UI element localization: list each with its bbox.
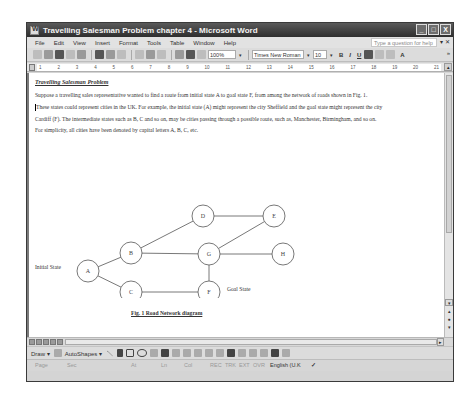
vertical-scrollbar[interactable]: ▾ ▴ ● ▾: [444, 73, 453, 337]
status-section: Sec: [67, 362, 76, 368]
save-icon[interactable]: [55, 50, 64, 59]
status-language[interactable]: English (U.K: [270, 362, 301, 368]
open-icon[interactable]: [44, 50, 53, 59]
autoshapes-menu-button[interactable]: AutoShapes ▾: [65, 350, 102, 357]
arrow-icon[interactable]: [117, 349, 123, 357]
print-preview-icon[interactable]: [106, 50, 115, 59]
insert-picture-icon[interactable]: [194, 349, 202, 357]
ruler-mark: 7: [149, 65, 152, 70]
text-box-icon[interactable]: [150, 349, 158, 357]
shadow-style-icon[interactable]: [271, 349, 279, 357]
edge-G-E: [218, 222, 264, 249]
scrollbar-thumb[interactable]: [446, 75, 452, 233]
toolbar-options-icon[interactable]: »: [447, 50, 450, 56]
road-network-diagram[interactable]: ABCDEGHF Initial State Goal State: [29, 178, 329, 298]
zoom-select[interactable]: 100%: [208, 50, 236, 59]
scroll-up-button[interactable]: ▴: [444, 63, 452, 71]
menu-edit[interactable]: Edit: [54, 40, 64, 46]
bold-button[interactable]: B: [339, 52, 343, 58]
font-size-select[interactable]: 10: [313, 50, 327, 59]
dash-style-icon[interactable]: [249, 349, 257, 357]
size-dropdown-icon[interactable]: ▾: [330, 52, 333, 58]
close-document-button[interactable]: ✕: [445, 38, 450, 45]
ruler-mark: 12: [246, 65, 251, 70]
spelling-status-icon[interactable]: ✓: [311, 362, 316, 368]
word-window: Travelling Salesman Problem chapter 4 - …: [26, 22, 454, 382]
spelling-icon[interactable]: [117, 50, 126, 59]
menu-file[interactable]: File: [35, 40, 45, 46]
web-layout-view-button[interactable]: [36, 339, 42, 345]
select-browse-object-button[interactable]: ●: [445, 316, 453, 323]
separator: [91, 50, 92, 60]
minimize-button[interactable]: _: [416, 24, 427, 35]
wordart-icon[interactable]: [161, 349, 169, 357]
ruler-mark: 19: [392, 65, 397, 70]
copy-icon[interactable]: [135, 50, 144, 59]
hyperlink-icon[interactable]: [175, 50, 184, 59]
status-trk[interactable]: TRK: [225, 362, 236, 368]
permission-icon[interactable]: [66, 50, 75, 59]
line-style-icon[interactable]: [238, 349, 246, 357]
drawing-icon[interactable]: [186, 50, 195, 59]
oval-icon[interactable]: [137, 349, 147, 357]
font-color-button[interactable]: A: [400, 52, 404, 58]
undo-icon[interactable]: [157, 50, 166, 59]
clip-art-icon[interactable]: [183, 349, 191, 357]
scroll-down-button[interactable]: ▾: [445, 299, 453, 306]
select-objects-icon[interactable]: [54, 349, 62, 357]
maximize-button[interactable]: □: [428, 24, 439, 35]
menu-help[interactable]: Help: [224, 40, 236, 46]
fill-color-icon[interactable]: [205, 349, 213, 357]
help-question-input[interactable]: Type a question for help: [371, 38, 437, 47]
normal-view-button[interactable]: [29, 339, 35, 345]
tab-selector[interactable]: [29, 64, 35, 71]
paste-icon[interactable]: [146, 50, 155, 59]
menu-window[interactable]: Window: [193, 40, 214, 46]
new-document-icon[interactable]: [33, 50, 42, 59]
status-ovr[interactable]: OVR: [253, 362, 265, 368]
justify-icon[interactable]: [364, 50, 373, 59]
arrow-style-icon[interactable]: [260, 349, 268, 357]
close-button[interactable]: X: [440, 24, 451, 35]
rectangle-icon[interactable]: [126, 349, 134, 357]
status-rec[interactable]: REC: [210, 362, 222, 368]
underline-button[interactable]: U: [357, 52, 361, 58]
horizontal-bar: ▸: [27, 337, 453, 346]
ruler-mark: 8: [168, 65, 171, 70]
menu-format[interactable]: Format: [119, 40, 138, 46]
scroll-right-button[interactable]: ▸: [437, 338, 444, 346]
draw-menu-button[interactable]: Draw ▾: [31, 350, 50, 357]
font-color-icon[interactable]: [227, 349, 235, 357]
figure-caption: Fig. 1 Road Network diagram: [131, 310, 202, 316]
next-page-button[interactable]: ▾: [445, 324, 453, 331]
print-layout-view-button[interactable]: [43, 339, 49, 345]
email-icon[interactable]: [77, 50, 86, 59]
font-select[interactable]: Times New Roman: [252, 50, 304, 59]
zoom-dropdown-icon[interactable]: ▾: [239, 52, 242, 58]
ruler[interactable]: 1 2 3 4 5 6 7 8 9 10 11 12 13 14 15 16 1…: [27, 63, 453, 72]
document-heading: Travelling Salesman Problem: [35, 79, 108, 85]
menu-insert[interactable]: Insert: [95, 40, 110, 46]
status-ext[interactable]: EXT: [239, 362, 250, 368]
document-page[interactable]: Travelling Salesman Problem Suppose a tr…: [27, 73, 444, 337]
scroll-left-button[interactable]: [57, 339, 63, 345]
horizontal-scrollbar[interactable]: [65, 339, 437, 345]
menu-table[interactable]: Table: [170, 40, 184, 46]
help-dropdown-icon[interactable]: ▾: [440, 38, 443, 45]
previous-page-button[interactable]: ▴: [445, 308, 453, 315]
line-icon[interactable]: [107, 350, 113, 356]
menu-tools[interactable]: Tools: [147, 40, 161, 46]
outline-view-button[interactable]: [50, 339, 56, 345]
italic-button[interactable]: I: [349, 52, 351, 58]
menu-view[interactable]: View: [73, 40, 86, 46]
print-icon[interactable]: [95, 50, 104, 59]
show-hide-pilcrow-icon[interactable]: [197, 50, 206, 59]
3d-style-icon[interactable]: [282, 349, 290, 357]
line-color-icon[interactable]: [216, 349, 224, 357]
diagram-icon[interactable]: [172, 349, 180, 357]
bullets-icon[interactable]: [386, 50, 395, 59]
numbering-icon[interactable]: [375, 50, 384, 59]
drawing-toolbar: Draw ▾ AutoShapes ▾: [27, 346, 453, 359]
font-dropdown-icon[interactable]: ▾: [307, 52, 310, 58]
word-app-icon[interactable]: [30, 26, 39, 35]
